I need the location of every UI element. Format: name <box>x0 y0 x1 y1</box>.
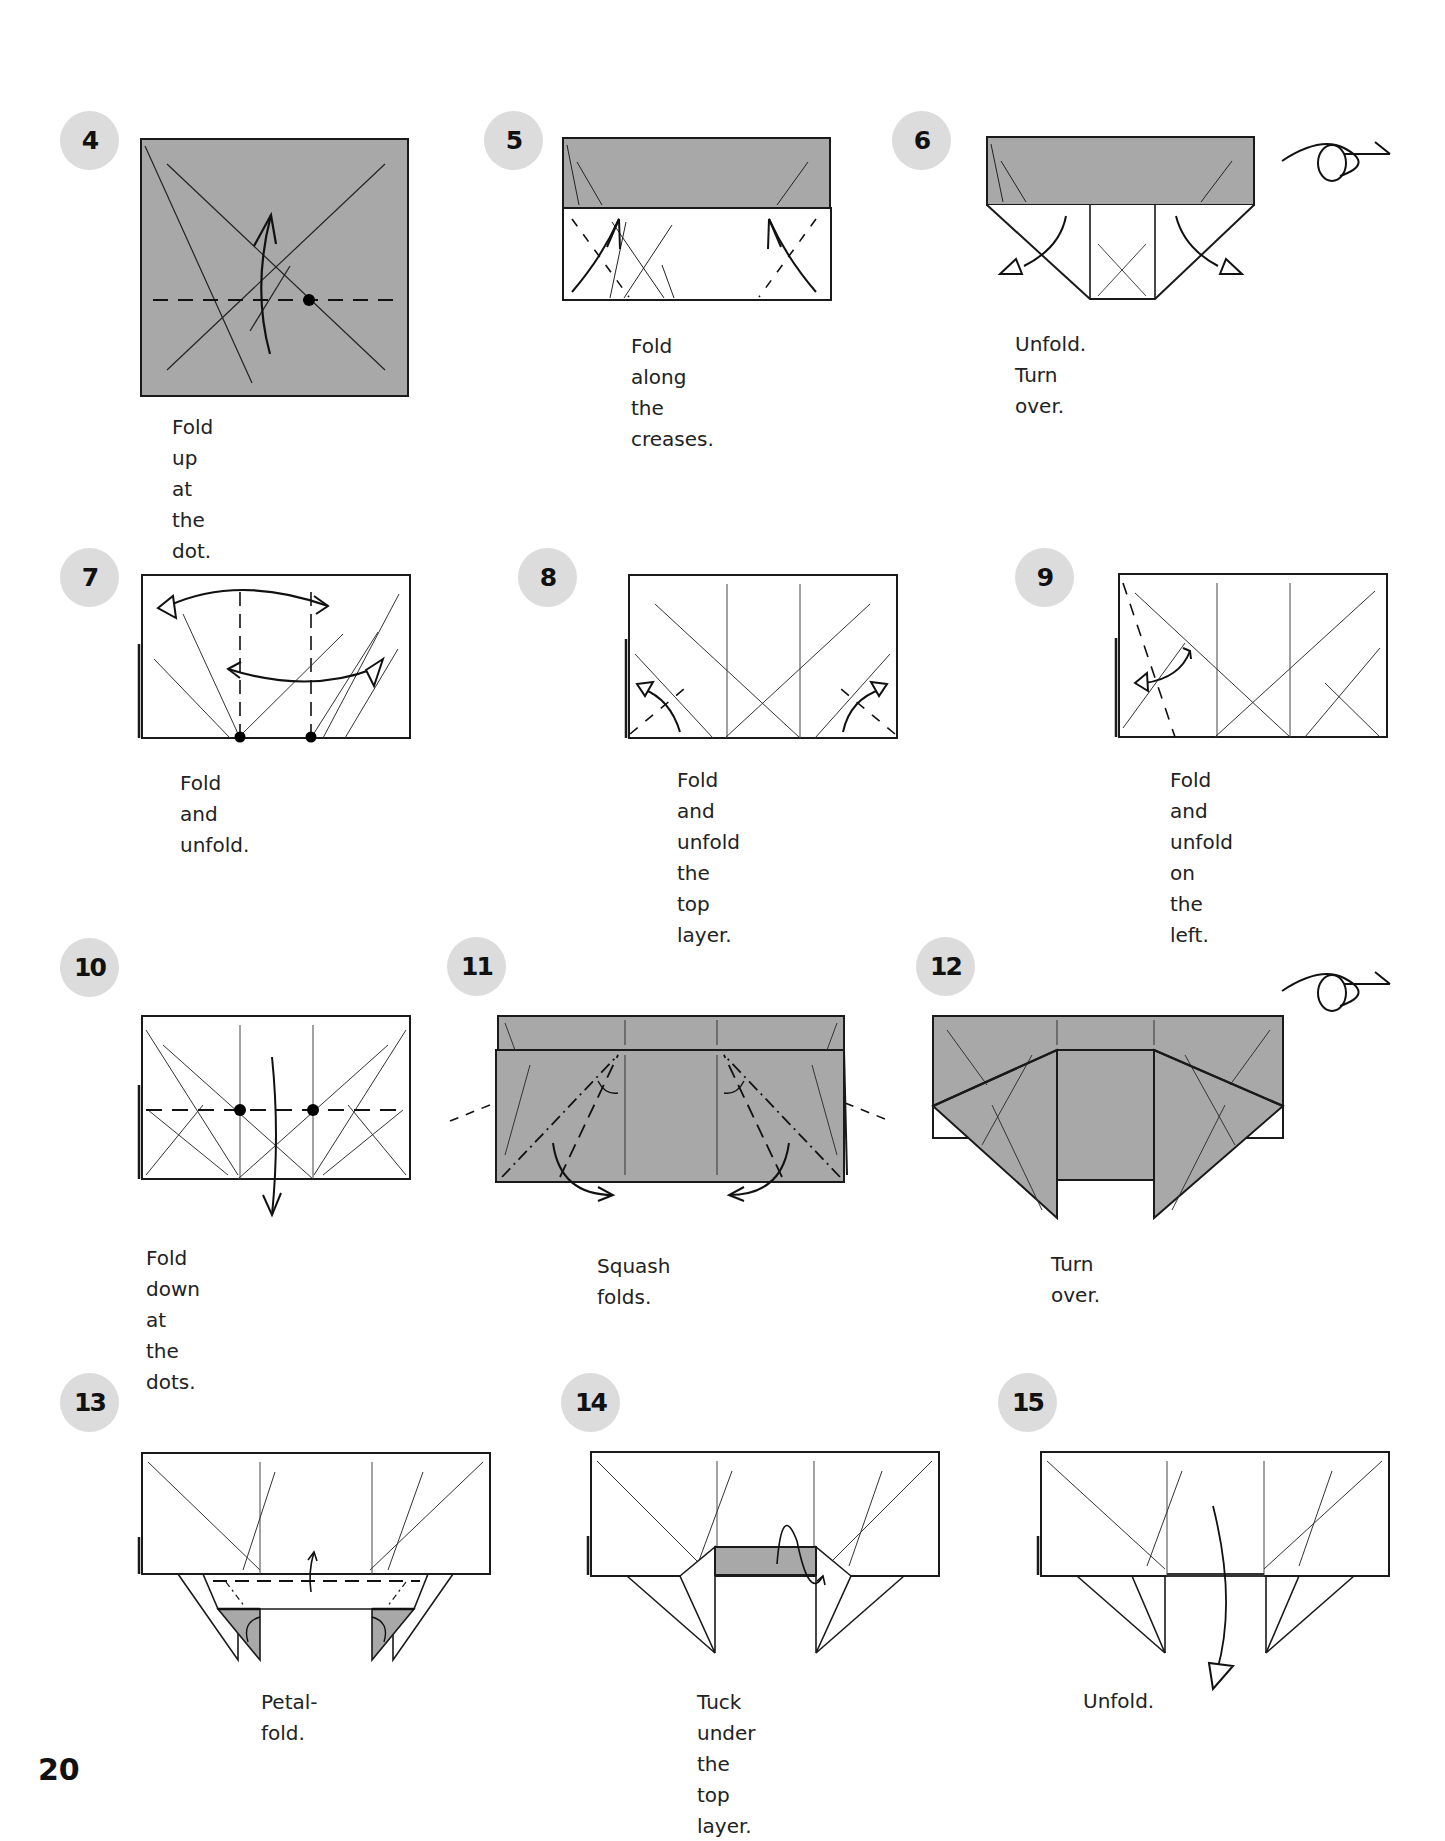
step-number-badge: 8 <box>518 548 577 607</box>
step-8-diagram <box>625 574 900 742</box>
step-number-badge: 7 <box>60 548 119 607</box>
step-caption: Fold along the creases. <box>631 331 714 455</box>
step-caption: Unfold. <box>1083 1686 1154 1717</box>
step-15-diagram <box>1037 1451 1392 1696</box>
step-4-diagram <box>140 138 410 398</box>
step-caption: Unfold. Turn over. <box>1015 329 1086 422</box>
step-number-badge: 9 <box>1015 548 1074 607</box>
step-caption: Petal-fold. <box>261 1687 318 1749</box>
step-number-badge: 10 <box>60 938 119 997</box>
step-caption: Turn over. <box>1051 1249 1100 1311</box>
step-caption: Fold and unfold. <box>180 768 249 861</box>
step-caption: Squash folds. <box>597 1251 670 1313</box>
step-caption: Tuck under the top layer. <box>697 1687 756 1841</box>
step-caption: Fold up at the dot. <box>172 412 213 567</box>
step-11-diagram <box>450 1015 890 1215</box>
step-caption: Fold and unfold on the left. <box>1170 765 1233 951</box>
page-number: 20 <box>38 1752 80 1787</box>
step-number-badge: 13 <box>60 1373 119 1432</box>
step-5-diagram <box>562 137 832 302</box>
step-number-badge: 12 <box>916 937 975 996</box>
step-13-diagram <box>138 1452 493 1667</box>
step-number-badge: 14 <box>561 1373 620 1432</box>
step-12-diagram <box>932 1015 1287 1230</box>
step-caption: Fold down at the dots. <box>146 1243 200 1398</box>
step-10-diagram <box>138 1015 413 1225</box>
step-number-badge: 5 <box>484 111 543 170</box>
step-number-badge: 6 <box>892 111 951 170</box>
step-caption: Fold and unfold the top layer. <box>677 765 740 951</box>
step-number-badge: 11 <box>447 937 506 996</box>
step-number-badge: 4 <box>60 111 119 170</box>
step-number-badge: 15 <box>998 1373 1057 1432</box>
step-7-diagram <box>138 574 413 742</box>
step-6-diagram <box>986 136 1256 301</box>
step-9-diagram <box>1115 573 1390 741</box>
reference-dot <box>303 294 315 306</box>
turn-over-icon <box>1280 966 1395 1016</box>
step-14-diagram <box>587 1451 942 1666</box>
turn-over-icon <box>1280 136 1395 186</box>
